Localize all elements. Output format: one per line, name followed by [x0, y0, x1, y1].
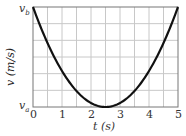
x-tick-label: 3	[117, 109, 124, 120]
x-tick-label: 2	[88, 109, 95, 120]
x-tick-label: 0	[30, 109, 37, 120]
y-tick-vb: vb	[19, 3, 30, 19]
x-tick-label: 5	[175, 109, 182, 120]
x-tick-label: 4	[146, 109, 153, 120]
y-tick-va: va	[19, 100, 29, 116]
x-axis-label: t (s)	[93, 121, 115, 132]
y-axis-label: v (m/s)	[4, 48, 17, 86]
x-tick-label: 1	[59, 109, 66, 120]
